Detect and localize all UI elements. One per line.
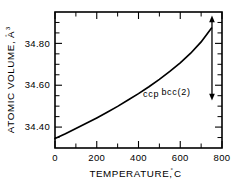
x-tick-label-600: 600 [172,152,189,163]
annotation-bcc2: bcc(2) [161,87,190,97]
bcc-transition-arrow [209,16,215,101]
y-axis-exponent-3: 3 [4,26,11,30]
plot-frame [55,12,222,148]
annotation-ccp: ccp [143,89,159,99]
y-axis-right-ticks [215,22,222,137]
x-tick-label-0: 0 [52,152,58,163]
x-tick-label-800: 800 [214,152,231,163]
x-tick-label-400: 400 [130,152,147,163]
x-tick-label-200: 200 [88,152,105,163]
x-axis-title-text: TEMPERATURE, [89,168,172,179]
ccp-curve [55,28,212,138]
y-tick-label-3480: 34.80 [25,38,50,49]
plot-canvas: 34.80 34.60 34.40 0 200 400 600 800 TEMP… [0,0,246,185]
atomic-volume-vs-temperature-chart: 34.80 34.60 34.40 0 200 400 600 800 TEMP… [0,0,246,185]
y-tick-label-3440: 34.40 [25,121,50,132]
y-tick-label-3460: 34.60 [25,79,50,90]
x-axis-title: TEMPERATURE, ° C [89,166,181,180]
y-axis-title: ATOMIC VOLUME, A ° 3 [3,26,16,133]
x-axis-top-ticks [55,12,222,19]
y-axis-title-text: ATOMIC VOLUME, A [5,31,16,133]
x-axis-unit-celsius: C [174,168,182,179]
y-axis-major-ticks [55,43,62,127]
x-axis-major-ticks [55,141,222,148]
